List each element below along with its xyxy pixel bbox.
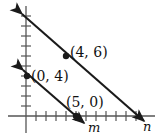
point-label-5-0: (5, 0) bbox=[66, 94, 104, 110]
point-label-0-4: (0, 4) bbox=[31, 68, 69, 84]
coordinate-plane-figure: (4, 6) (0, 4) (5, 0) m n bbox=[0, 0, 157, 140]
point-4-6 bbox=[63, 53, 69, 59]
line-label-n: n bbox=[143, 119, 151, 134]
point-label-4-6: (4, 6) bbox=[70, 44, 108, 60]
coordinate-plane-svg bbox=[0, 0, 157, 140]
point-0-4 bbox=[24, 73, 30, 79]
line-label-m: m bbox=[88, 120, 100, 135]
point-5-0 bbox=[73, 113, 79, 119]
